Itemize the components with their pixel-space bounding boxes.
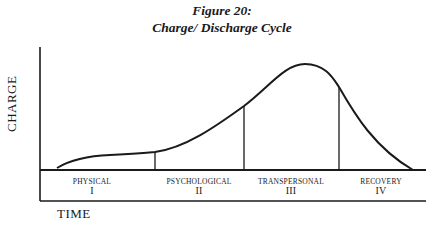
y-axis-label: CHARGE <box>4 76 20 132</box>
phase-psychological: PSYCHOLOGICAL II <box>155 177 243 195</box>
charge-curve <box>57 64 413 170</box>
phase-numeral: IV <box>348 186 414 195</box>
phase-transpersonal: TRANSPERSONAL III <box>245 177 337 195</box>
phase-numeral: III <box>245 186 337 195</box>
phase-numeral: II <box>155 186 243 195</box>
phase-recovery: RECOVERY IV <box>348 177 414 195</box>
phase-numeral: I <box>52 186 132 195</box>
x-axis-label: TIME <box>57 206 91 222</box>
phase-physical: PHYSICAL I <box>52 177 132 195</box>
